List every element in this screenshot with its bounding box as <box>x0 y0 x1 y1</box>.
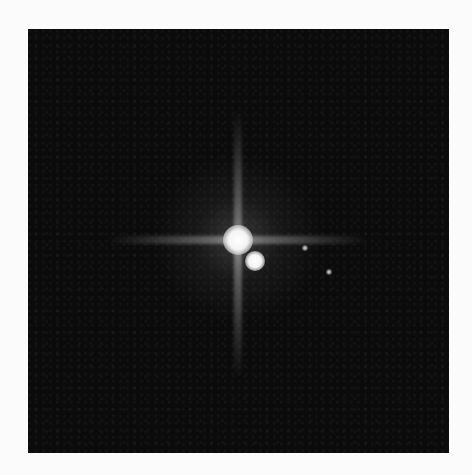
primary-body <box>223 225 253 255</box>
faint-moon-1 <box>302 245 308 251</box>
companion-body <box>245 251 265 271</box>
image-frame <box>28 29 449 453</box>
faint-moon-2 <box>326 269 332 275</box>
